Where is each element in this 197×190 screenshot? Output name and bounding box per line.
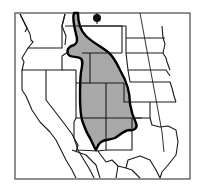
map-canvas — [0, 0, 197, 190]
range-map: Species range map, western United States — [0, 0, 197, 190]
